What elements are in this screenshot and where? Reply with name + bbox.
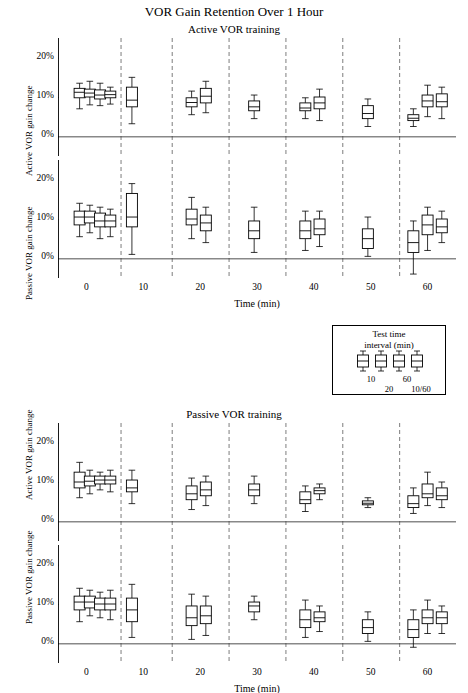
box-plot-item xyxy=(200,476,211,506)
y-tick-label: 0% xyxy=(24,129,54,139)
xlabel-panel-1: Time (min) xyxy=(58,298,456,309)
x-tick-label: 10 xyxy=(128,282,158,292)
box-plot-item xyxy=(362,498,373,508)
x-tick-label: 50 xyxy=(356,282,386,292)
box-plot-item xyxy=(74,462,85,497)
box-plot-item xyxy=(436,482,447,508)
plot-passive-gain-passive-training xyxy=(58,545,457,664)
legend-box-glyph xyxy=(376,351,387,371)
x-tick-label: 30 xyxy=(242,667,272,677)
plot-active-gain-passive-training xyxy=(58,423,457,542)
legend-label: 60 xyxy=(393,374,421,384)
x-tick-label: 60 xyxy=(413,667,443,677)
box-plot-item xyxy=(362,99,373,127)
box-plot-item xyxy=(436,211,447,242)
box-plot-item xyxy=(74,203,85,236)
box-plot-item xyxy=(186,594,197,639)
x-tick-label: 10 xyxy=(128,667,158,677)
box-plot-item xyxy=(249,596,260,620)
box-plot-item xyxy=(74,83,85,109)
box-plot-item xyxy=(408,488,419,514)
box-plot-item xyxy=(84,590,95,616)
box-plot-item xyxy=(105,470,116,492)
x-tick-label: 40 xyxy=(299,282,329,292)
box-plot-item xyxy=(105,209,116,237)
box-plot-item xyxy=(314,484,325,500)
box-plot-item xyxy=(314,89,325,120)
x-tick-label: 60 xyxy=(413,282,443,292)
x-tick-label: 50 xyxy=(356,667,386,677)
y-tick-label: 20% xyxy=(24,173,54,183)
box-plot-item xyxy=(126,184,137,255)
box-plot-item xyxy=(200,81,211,112)
y-tick-label: 10% xyxy=(24,212,54,222)
y-tick-label: 0% xyxy=(24,636,54,646)
panel-title-active-vor-training: Active VOR training xyxy=(0,23,468,35)
box-plot-item xyxy=(408,221,419,274)
box-plot-item xyxy=(105,87,116,104)
legend-box-glyph xyxy=(358,351,369,371)
box-plot-item xyxy=(74,588,85,621)
box-plot-item xyxy=(300,98,311,119)
box-plot-item xyxy=(95,472,106,490)
box-plot-item xyxy=(84,205,95,233)
legend-box-glyph xyxy=(412,351,423,371)
box-plot-item xyxy=(422,207,433,250)
box-plot-item xyxy=(362,612,373,642)
legend-label: 10 xyxy=(357,374,385,384)
box-plot-item xyxy=(422,600,433,633)
legend-title-line1: Test time xyxy=(333,329,445,340)
box-plot-item xyxy=(300,211,311,250)
box-plot-item xyxy=(249,95,260,119)
box-plot-item xyxy=(200,596,211,635)
figure-title: VOR Gain Retention Over 1 Hour xyxy=(0,4,468,20)
box-plot-item xyxy=(105,590,116,620)
box-plot-item xyxy=(436,87,447,118)
y-tick-label: 10% xyxy=(24,90,54,100)
box-plot-item xyxy=(84,81,95,105)
box-plot-item xyxy=(249,476,260,504)
xlabel-panel-2: Time (min) xyxy=(58,683,456,693)
legend-box-glyph xyxy=(394,351,405,371)
box-plot-item xyxy=(186,197,197,238)
box-plot-item xyxy=(436,606,447,634)
y-tick-label: 10% xyxy=(24,475,54,485)
legend: Test time interval (min) 10206010/60 xyxy=(332,325,446,395)
box-plot-item xyxy=(314,606,325,632)
plot-passive-gain-active-training xyxy=(58,160,457,279)
x-tick-label: 30 xyxy=(242,282,272,292)
box-plot-item xyxy=(84,470,95,494)
y-tick-label: 0% xyxy=(24,514,54,524)
box-plot-item xyxy=(126,470,137,503)
y-tick-label: 10% xyxy=(24,597,54,607)
y-tick-label: 20% xyxy=(24,436,54,446)
box-plot-item xyxy=(126,77,137,123)
y-tick-label: 0% xyxy=(24,251,54,261)
box-plot-item xyxy=(300,600,311,637)
y-tick-label: 20% xyxy=(24,51,54,61)
x-tick-label: 40 xyxy=(299,667,329,677)
ylabel-passive-gain-passive-training: Passive VOR gain change xyxy=(24,530,34,624)
box-plot-item xyxy=(422,85,433,116)
box-plot-item xyxy=(95,592,106,618)
y-tick-label: 20% xyxy=(24,558,54,568)
box-plot-item xyxy=(422,472,433,505)
x-tick-label: 0 xyxy=(71,667,101,677)
figure-root: VOR Gain Retention Over 1 Hour Active VO… xyxy=(0,0,468,693)
box-plot-item xyxy=(186,91,197,115)
box-plot-item xyxy=(300,486,311,512)
box-plot-item xyxy=(408,109,419,127)
box-plot-item xyxy=(95,83,106,105)
box-plot-item xyxy=(362,217,373,256)
x-tick-label: 20 xyxy=(185,667,215,677)
ylabel-active-gain-passive-training: Active VOR gain change xyxy=(24,409,34,500)
plot-active-gain-active-training xyxy=(58,38,457,157)
x-tick-label: 0 xyxy=(71,282,101,292)
legend-label: 10/60 xyxy=(407,384,435,394)
box-plot-item xyxy=(95,207,106,238)
box-plot-item xyxy=(408,610,419,647)
box-plot-item xyxy=(249,207,260,252)
box-plot-item xyxy=(186,478,197,509)
x-tick-label: 20 xyxy=(185,282,215,292)
box-plot-item xyxy=(200,207,211,242)
